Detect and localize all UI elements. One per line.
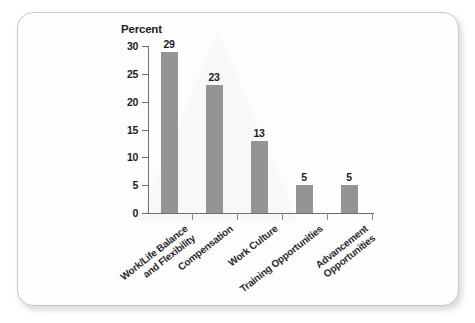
y-tick-25 [142, 74, 149, 75]
x-tick-boundary-5 [372, 213, 373, 220]
bar-value-compensation: 23 [194, 71, 234, 83]
x-axis-line [148, 213, 374, 214]
bar-advancement-opportunities[interactable] [341, 185, 358, 213]
y-tick-15 [142, 130, 149, 131]
bar-work-life-balance[interactable] [161, 52, 178, 213]
y-tick-label-0: 0 [114, 207, 138, 219]
bar-value-advancement-opportunities: 5 [329, 171, 369, 183]
y-tick-20 [142, 102, 149, 103]
bar-compensation[interactable] [206, 85, 223, 213]
bar-value-work-culture: 13 [239, 127, 279, 139]
x-tick-boundary-4 [327, 213, 328, 220]
y-axis-title: Percent [121, 23, 162, 35]
bar-chart: Percent 30 25 20 15 10 5 0 29 23 13 [18, 13, 458, 305]
y-tick-5 [142, 185, 149, 186]
y-tick-label-10: 10 [114, 151, 138, 163]
y-tick-10 [142, 157, 149, 158]
bar-work-culture[interactable] [251, 141, 268, 213]
bar-value-training-opportunities: 5 [284, 171, 324, 183]
x-tick-boundary-3 [282, 213, 283, 220]
y-tick-label-5: 5 [114, 179, 138, 191]
x-tick-boundary-2 [237, 213, 238, 220]
bar-training-opportunities[interactable] [296, 185, 313, 213]
y-tick-label-30: 30 [114, 40, 138, 52]
y-tick-label-15: 15 [114, 124, 138, 136]
y-tick-label-20: 20 [114, 96, 138, 108]
chart-card: Percent 30 25 20 15 10 5 0 29 23 13 [17, 12, 459, 306]
y-tick-0 [142, 213, 149, 214]
x-tick-boundary-1 [192, 213, 193, 220]
y-tick-label-25: 25 [114, 68, 138, 80]
bar-value-work-life-balance: 29 [149, 38, 189, 50]
y-tick-30 [142, 46, 149, 47]
